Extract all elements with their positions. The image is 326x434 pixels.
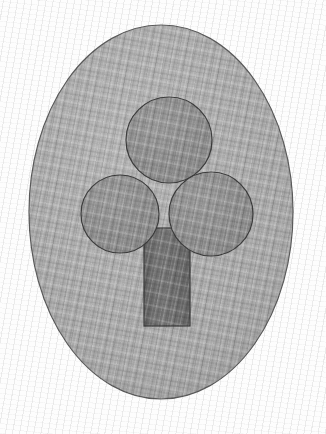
club-leaf-left-group: [81, 175, 159, 253]
club-leaf-top-shading: [127, 98, 212, 183]
club-leaf-left-shading: [82, 176, 159, 253]
club-leaf-top-group: [126, 97, 212, 183]
figure-canvas: Club suit emblem on oval field Grayscale…: [0, 0, 326, 434]
club-emblem-figure: Club suit emblem on oval field Grayscale…: [0, 0, 326, 434]
club-leaf-right-shading: [170, 173, 253, 256]
club-leaf-right-group: [169, 172, 253, 256]
